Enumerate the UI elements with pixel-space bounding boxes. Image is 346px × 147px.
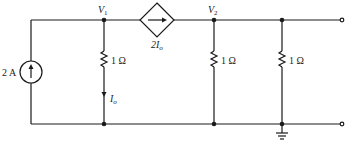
dependent-source-label: 2Io bbox=[151, 39, 163, 52]
resistor-1-label: 1 Ω bbox=[111, 55, 126, 66]
current-source-label: 2 A bbox=[2, 67, 17, 78]
resistor-2 bbox=[211, 51, 217, 67]
terminal-bottom bbox=[340, 122, 344, 126]
resistor-3-label: 1 Ω bbox=[289, 55, 304, 66]
current-arrow-icon bbox=[102, 92, 107, 97]
resistor-1 bbox=[101, 51, 107, 67]
node-v1-label: V1 bbox=[98, 4, 108, 17]
terminal-top bbox=[340, 18, 344, 22]
current-io-label: Io bbox=[109, 93, 117, 106]
node-v2-dot bbox=[212, 18, 217, 23]
node-v2-label: V2 bbox=[208, 4, 218, 17]
node-v1-dot bbox=[102, 18, 107, 23]
circuit-diagram: 2 A V1 V2 2Io 1 Ω 1 Ω 1 Ω Io bbox=[0, 0, 346, 147]
resistor-3 bbox=[279, 51, 285, 67]
resistor-2-label: 1 Ω bbox=[221, 55, 236, 66]
